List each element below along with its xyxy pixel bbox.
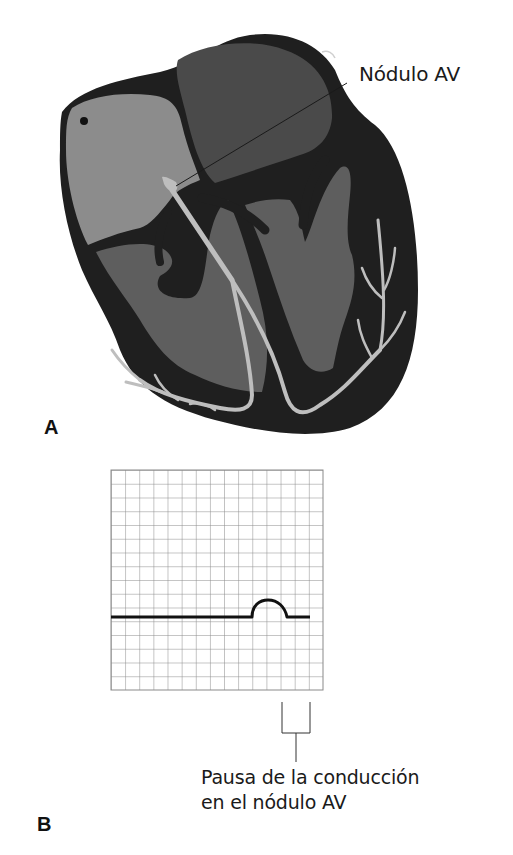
pause-label-line2: en el nódulo AV <box>201 791 346 814</box>
panel-b-letter: B <box>37 814 51 834</box>
panel-a-letter: A <box>44 417 58 437</box>
ecg-trace <box>111 600 310 617</box>
pause-bracket <box>282 702 310 762</box>
av-node-label: Nódulo AV <box>359 62 460 86</box>
ecg-grid <box>111 470 323 690</box>
sa-node-dot <box>80 117 88 125</box>
pause-label-line1: Pausa de la conducción <box>201 766 419 789</box>
